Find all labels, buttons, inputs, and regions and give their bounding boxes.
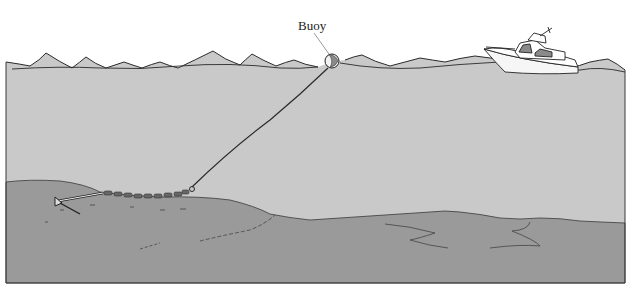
boat-mast xyxy=(540,28,552,36)
buoy-label: Buoy xyxy=(298,18,326,34)
buoy-label-leader xyxy=(314,33,329,54)
buoy-mooring-illustration xyxy=(0,0,633,290)
buoy xyxy=(325,54,339,68)
